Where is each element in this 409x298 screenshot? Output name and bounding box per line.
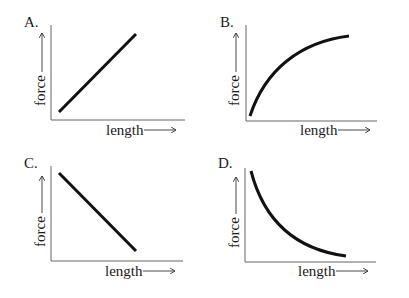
panel-c: C. force length — [24, 155, 183, 279]
x-axis-label: length — [298, 263, 336, 279]
force-length-graphs: A. force length B. force length C. force… — [0, 0, 409, 298]
y-axis-label: force — [32, 75, 48, 106]
panel-a: A. force length — [24, 14, 185, 138]
y-axis-label: force — [32, 216, 48, 247]
panel-d: D. force length — [218, 155, 376, 279]
panel-a-label: A. — [24, 14, 39, 30]
y-axis-label: force — [226, 217, 242, 248]
data-curve — [250, 36, 349, 116]
data-curve — [251, 171, 346, 256]
x-axis-label: length — [105, 263, 143, 279]
panel-c-label: C. — [24, 155, 38, 171]
data-line — [59, 173, 136, 251]
x-axis-label: length — [300, 122, 338, 138]
panel-d-label: D. — [218, 155, 233, 171]
y-axis-label: force — [226, 75, 242, 106]
panel-b: B. force length — [220, 14, 377, 138]
panel-b-label: B. — [220, 14, 234, 30]
x-axis-label: length — [106, 122, 144, 138]
data-line — [59, 34, 136, 112]
